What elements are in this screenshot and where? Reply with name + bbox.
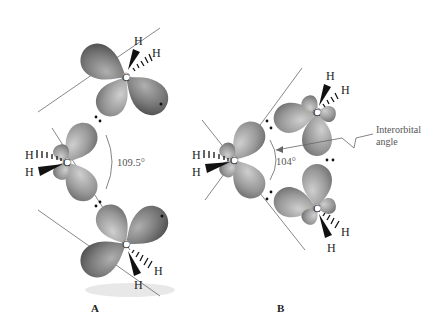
annotation-label: Interorbital: [376, 124, 421, 135]
hydrogen-label: H: [192, 165, 201, 179]
angle-label: 109.5°: [117, 157, 145, 168]
carbon-label: C: [122, 71, 129, 83]
hydrogen-label: H: [341, 225, 350, 239]
angle-label: 104°: [276, 156, 296, 167]
carbon-label: C: [230, 154, 237, 166]
hydrogen-label: H: [134, 278, 143, 292]
carbon-label: C: [313, 202, 320, 214]
orbital-diagram: C C C H H H H H H 109.5°: [0, 0, 443, 321]
panel-label-a: A: [91, 302, 99, 314]
carbon-label: C: [313, 106, 320, 118]
carbon-label: C: [122, 238, 129, 250]
hydrogen-label: H: [192, 148, 201, 162]
molecule-a: C C C H H H H H H 109.5°: [25, 28, 175, 314]
panel-label-b: B: [277, 302, 285, 314]
annotation-label: angle: [376, 136, 398, 147]
molecule-b: C C C H H H H H H 104°: [192, 68, 421, 314]
angle-arc: [106, 135, 112, 189]
hydrogen-label: H: [327, 241, 336, 255]
hydrogen-label: H: [152, 46, 161, 60]
hydrogen-label: H: [326, 69, 335, 83]
hydrogen-label: H: [154, 264, 163, 278]
carbon-label: C: [63, 156, 70, 168]
hydrogen-label: H: [25, 165, 34, 179]
hydrogen-label: H: [134, 34, 143, 48]
hydrogen-label: H: [25, 148, 34, 162]
hydrogen-label: H: [341, 83, 350, 97]
diagram-canvas: C C C H H H H H H 109.5°: [0, 0, 443, 321]
